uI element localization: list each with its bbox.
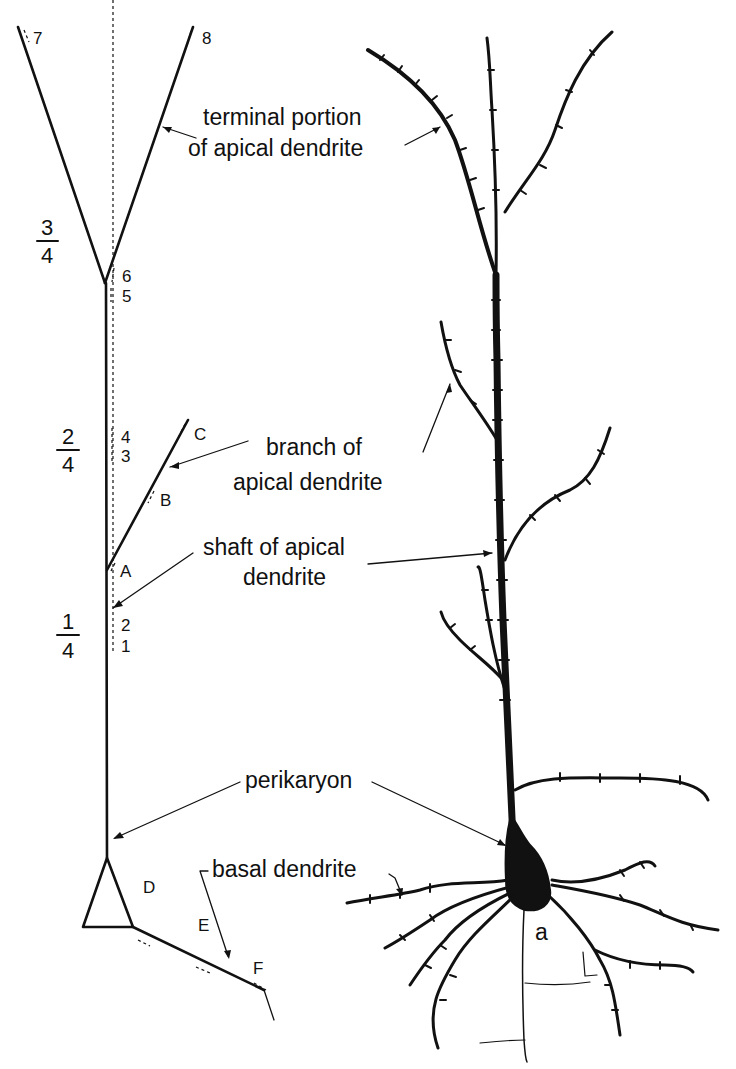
label-branch-of-apical-dendrite: branch of apical dendrite — [170, 384, 452, 495]
marker-2: 2 — [121, 616, 130, 635]
label-terminal-portion: terminal portion of apical dendrite — [163, 104, 440, 161]
marker-3: 3 — [121, 447, 130, 466]
marker-1: 1 — [121, 637, 130, 656]
marker-6: 6 — [122, 267, 131, 286]
fraction-three-quarters: 3 4 — [37, 215, 58, 268]
fraction-two-quarters: 2 4 — [57, 424, 79, 477]
svg-text:perikaryon: perikaryon — [245, 767, 352, 793]
label-perikaryon: perikaryon — [113, 767, 506, 846]
svg-text:shaft of apical: shaft of apical — [203, 534, 345, 560]
svg-text:2: 2 — [62, 424, 74, 449]
svg-text:terminal portion: terminal portion — [203, 104, 362, 130]
marker-c: C — [194, 425, 206, 444]
marker-a: A — [120, 562, 132, 581]
svg-text:4: 4 — [62, 452, 74, 477]
svg-text:of apical dendrite: of apical dendrite — [188, 135, 363, 161]
label-shaft-of-apical-dendrite: shaft of apical dendrite — [113, 534, 492, 608]
svg-text:basal dendrite: basal dendrite — [212, 856, 357, 882]
fraction-one-quarter: 1 4 — [57, 609, 79, 663]
label-axon: a — [535, 919, 548, 945]
marker-b: B — [160, 491, 171, 510]
svg-text:4: 4 — [41, 243, 53, 268]
label-basal-dendrite: basal dendrite — [200, 856, 403, 959]
marker-7: 7 — [33, 29, 42, 48]
svg-text:apical dendrite: apical dendrite — [233, 469, 383, 495]
marker-8: 8 — [202, 29, 211, 48]
marker-d: D — [143, 878, 155, 897]
svg-text:3: 3 — [41, 215, 53, 240]
svg-text:1: 1 — [62, 609, 74, 634]
svg-text:4: 4 — [62, 638, 74, 663]
marker-e: E — [198, 916, 209, 935]
neuron-drawing-icon — [347, 32, 718, 1062]
svg-text:dendrite: dendrite — [243, 564, 326, 590]
marker-f: F — [253, 959, 263, 978]
svg-text:branch of: branch of — [266, 434, 363, 460]
marker-5: 5 — [122, 287, 131, 306]
marker-4: 4 — [121, 428, 130, 447]
neuron-diagram: 3 4 2 4 1 4 7 8 6 5 4 3 2 1 C B A D E F — [0, 0, 736, 1069]
